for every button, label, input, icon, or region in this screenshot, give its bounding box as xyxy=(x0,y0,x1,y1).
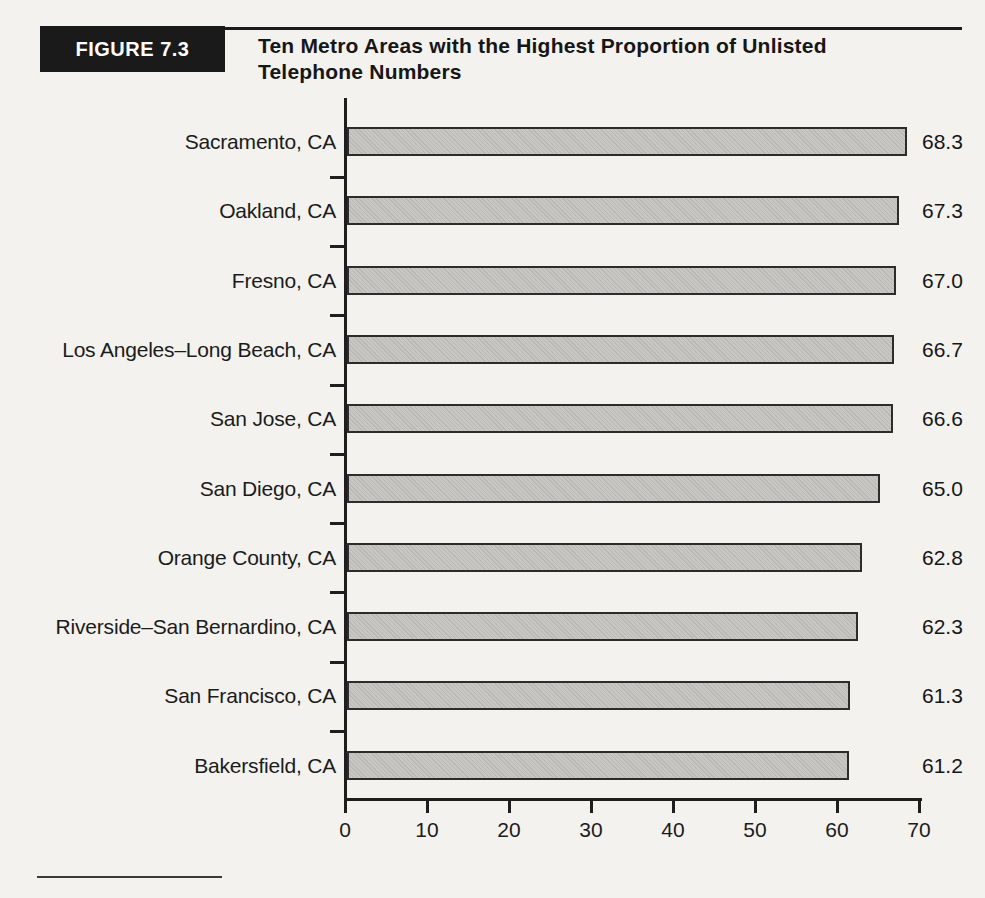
x-axis-tick-label: 50 xyxy=(725,818,785,842)
x-axis-tick xyxy=(590,798,593,813)
x-axis-tick xyxy=(344,798,347,813)
y-axis-tick xyxy=(330,384,344,387)
value-label: 67.3 xyxy=(922,198,963,224)
x-axis-tick-label: 0 xyxy=(315,818,375,842)
category-label: Oakland, CA xyxy=(20,198,336,224)
value-label: 66.7 xyxy=(922,337,963,363)
y-axis-tick xyxy=(330,522,344,525)
value-label: 62.3 xyxy=(922,614,963,640)
x-axis-tick xyxy=(426,798,429,813)
x-axis-tick xyxy=(918,798,921,813)
category-label: Los Angeles–Long Beach, CA xyxy=(20,337,336,363)
x-axis-tick xyxy=(672,798,675,813)
category-label: Orange County, CA xyxy=(20,545,336,571)
value-label: 61.3 xyxy=(922,683,963,709)
x-axis-tick-label: 70 xyxy=(889,818,949,842)
y-axis-tick xyxy=(330,591,344,594)
y-axis-tick xyxy=(330,661,344,664)
x-axis-tick-label: 10 xyxy=(397,818,457,842)
value-label: 68.3 xyxy=(922,129,963,155)
x-axis-tick xyxy=(508,798,511,813)
value-label: 61.2 xyxy=(922,753,963,779)
bar xyxy=(347,404,893,433)
bar-chart: Sacramento, CA68.3Oakland, CA67.3Fresno,… xyxy=(0,0,985,898)
bar xyxy=(347,681,850,710)
bar xyxy=(347,196,899,225)
y-axis-tick xyxy=(330,314,344,317)
category-label: San Francisco, CA xyxy=(20,683,336,709)
value-label: 65.0 xyxy=(922,476,963,502)
category-label: Sacramento, CA xyxy=(20,129,336,155)
footnote-rule xyxy=(37,876,222,878)
x-axis-tick-label: 30 xyxy=(561,818,621,842)
category-label: Riverside–San Bernardino, CA xyxy=(20,614,336,640)
bar xyxy=(347,474,880,503)
x-axis-tick xyxy=(754,798,757,813)
x-axis-tick-label: 60 xyxy=(807,818,867,842)
bar xyxy=(347,543,862,572)
bar xyxy=(347,266,896,295)
y-axis-tick xyxy=(330,730,344,733)
value-label: 67.0 xyxy=(922,268,963,294)
x-axis-tick-label: 40 xyxy=(643,818,703,842)
bar xyxy=(347,335,894,364)
bar xyxy=(347,127,907,156)
x-axis-tick-label: 20 xyxy=(479,818,539,842)
value-label: 62.8 xyxy=(922,545,963,571)
bar xyxy=(347,612,858,641)
y-axis-tick xyxy=(330,176,344,179)
category-label: San Jose, CA xyxy=(20,406,336,432)
category-label: Bakersfield, CA xyxy=(20,753,336,779)
category-label: San Diego, CA xyxy=(20,476,336,502)
value-label: 66.6 xyxy=(922,406,963,432)
category-label: Fresno, CA xyxy=(20,268,336,294)
x-axis-tick xyxy=(836,798,839,813)
y-axis-tick xyxy=(330,453,344,456)
figure-page: FIGURE 7.3 Ten Metro Areas with the High… xyxy=(0,0,985,898)
bar xyxy=(347,751,849,780)
y-axis-tick xyxy=(330,245,344,248)
